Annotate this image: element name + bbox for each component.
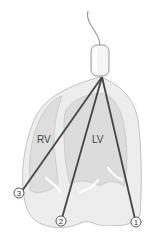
lv-label: LV	[92, 134, 104, 145]
electrode-number-3: 3	[17, 189, 22, 198]
electrode-marker-1: 1	[131, 217, 141, 227]
lead-wire	[87, 11, 100, 46]
heart-diagram: RV LV 3 2 1	[0, 0, 150, 246]
electrode-number-2: 2	[59, 217, 64, 226]
valve-bottom	[92, 227, 128, 230]
electrode-marker-3: 3	[14, 188, 24, 198]
rv-label: RV	[37, 134, 51, 145]
electrode-number-1: 1	[134, 218, 139, 227]
device-highlight	[93, 48, 97, 72]
electrode-marker-2: 2	[56, 216, 66, 226]
